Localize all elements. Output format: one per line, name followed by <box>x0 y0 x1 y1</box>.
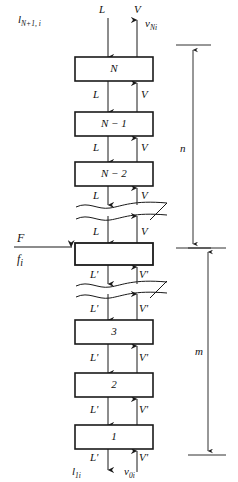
label-top-liquid-symbol: L <box>99 4 105 15</box>
interstage-vapor-label-break2-stage3: V' <box>139 303 148 314</box>
dimension-label-m: m <box>195 345 203 357</box>
interstage-liquid-label-break-feed: L <box>93 226 99 237</box>
label-feed-composition: fi <box>17 252 23 268</box>
label-bottom-liquid-composition-sub: 1i <box>75 471 81 480</box>
break-line-upper-top <box>76 202 167 208</box>
stage-label-1: N − 1 <box>75 118 153 129</box>
break-slash-upper <box>150 203 167 220</box>
label-top-liquid-composition-sub: N+1, i <box>21 19 41 28</box>
interstage-vapor-label-feed-break2: V' <box>139 269 148 280</box>
label-bottom-liquid-composition: l1i <box>72 466 81 480</box>
stage-label-2: N − 2 <box>75 168 153 179</box>
label-top-vapor-composition-sub: Ni <box>150 23 157 32</box>
label-bottom-vapor-composition: v0i <box>124 466 135 480</box>
label-feed-symbol: F <box>17 231 24 246</box>
interstage-liquid-label-stage3-stage2: L' <box>90 352 98 363</box>
interstage-liquid-label-n-n1: L <box>93 89 99 100</box>
label-feed-composition-sub: i <box>20 257 23 268</box>
interstage-liquid-label-n2-break: L <box>93 190 99 201</box>
interstage-vapor-label-n-n1: V <box>141 89 148 100</box>
stage-label-6: 1 <box>75 431 153 442</box>
stage-label-0: N <box>75 63 153 74</box>
dimension-label-n: n <box>180 142 186 154</box>
label-top-liquid-composition: lN+1, i <box>18 14 41 28</box>
interstage-vapor-label-stage3-stage2: V' <box>139 352 148 363</box>
label-bottom-liquid-symbol: L' <box>90 452 98 463</box>
label-bottom-vapor-composition-sub: 0i <box>129 471 135 480</box>
interstage-liquid-label-feed-break2: L' <box>90 269 98 280</box>
interstage-liquid-label-break2-stage3: L' <box>90 303 98 314</box>
stage-label-4: 3 <box>75 326 153 337</box>
break-line-lower-top <box>76 281 167 287</box>
interstage-vapor-label-n1-n2: V <box>141 142 148 153</box>
interstage-vapor-label-break-feed: V <box>141 226 148 237</box>
stage-label-5: 2 <box>75 379 153 390</box>
label-top-vapor-symbol: V <box>134 4 141 15</box>
interstage-vapor-label-stage2-stage1: V' <box>139 404 148 415</box>
interstage-liquid-label-stage2-stage1: L' <box>90 404 98 415</box>
break-slash-lower <box>150 281 167 298</box>
label-bottom-vapor-symbol: V' <box>139 452 148 463</box>
stage-cascade-diagram: L lN+1, i V vNi N N − 1 N − 2 3 2 1 L V … <box>0 0 238 482</box>
label-top-vapor-composition: vNi <box>145 18 157 32</box>
stage-box-3-feed <box>75 243 153 265</box>
interstage-liquid-label-n1-n2: L <box>93 142 99 153</box>
interstage-vapor-label-n2-break: V <box>141 190 148 201</box>
